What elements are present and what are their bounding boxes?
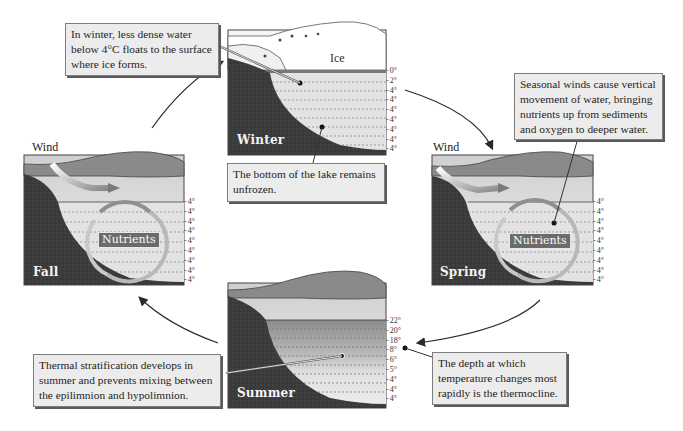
- temp-label: 4°: [386, 135, 397, 145]
- callout-summer-stratification: Thermal stratification develops in summe…: [33, 354, 221, 407]
- temp-label: 0°: [386, 66, 397, 76]
- spring-temperature-scale: 4° 4° 4° 4° 4° 4° 4° 4° 4°: [593, 197, 604, 285]
- callout-line: rapidly is the thermocline.: [438, 386, 561, 401]
- summer-temperature-scale: 22° 20° 18° 8° 6° 5° 4° 4° 4°: [386, 316, 401, 404]
- fall-temperature-scale: 4° 4° 4° 4° 4° 4° 4° 4° 4°: [184, 197, 195, 285]
- callout-line: Thermal stratification develops in: [39, 358, 215, 373]
- temp-label: 4°: [386, 375, 401, 385]
- temp-label: 18°: [386, 336, 401, 346]
- temp-label: 4°: [593, 246, 604, 256]
- callout-line: The bottom of the lake remains: [233, 167, 379, 182]
- temp-label: 4°: [184, 275, 195, 285]
- callout-line: unfrozen.: [233, 182, 379, 197]
- fall-wind-label: Wind: [32, 140, 58, 155]
- callout-line: where ice forms.: [71, 57, 213, 72]
- fall-nutrients-label: Nutrients: [98, 232, 160, 248]
- temp-label: 4°: [184, 207, 195, 217]
- temp-label: 4°: [593, 226, 604, 236]
- winter-temperature-scale: 0° 2° 4° 4° 4° 4° 4° 4° 4°: [386, 66, 397, 154]
- temp-label: 4°: [386, 105, 397, 115]
- temp-label: 4°: [184, 266, 195, 276]
- temp-label: 22°: [386, 316, 401, 326]
- temp-label: 4°: [593, 207, 604, 217]
- callout-line: nutrients up from sediments: [520, 107, 657, 122]
- temp-label: 4°: [184, 256, 195, 266]
- temp-label: 4°: [386, 385, 401, 395]
- temp-label: 4°: [184, 197, 195, 207]
- temp-label: 8°: [386, 345, 401, 355]
- temp-label: 4°: [386, 95, 397, 105]
- callout-line: summer and prevents mixing between: [39, 373, 215, 388]
- leader-thermocline: [405, 348, 432, 357]
- temp-label: 6°: [386, 355, 401, 365]
- temp-label: 4°: [593, 266, 604, 276]
- temp-label: 4°: [386, 86, 397, 96]
- callout-line: movement of water, bringing: [520, 92, 657, 107]
- temp-label: 4°: [386, 125, 397, 135]
- callout-line: temperature changes most: [438, 371, 561, 386]
- callout-thermocline: The depth at which temperature changes m…: [432, 352, 567, 405]
- temp-label: 2°: [386, 76, 397, 86]
- temp-label: 20°: [386, 326, 401, 336]
- temp-label: 4°: [386, 115, 397, 125]
- callout-line: In winter, less dense water: [71, 27, 213, 42]
- cycle-arrow-spring-to-summer: [418, 300, 540, 343]
- temp-label: 4°: [593, 275, 604, 285]
- temp-label: 4°: [386, 144, 397, 154]
- callout-winter-bottom: The bottom of the lake remains unfrozen.: [227, 163, 385, 202]
- callout-line: The depth at which: [438, 356, 561, 371]
- season-label-winter: Winter: [237, 133, 284, 147]
- callout-winter-surface: In winter, less dense water below 4°C fl…: [65, 23, 219, 76]
- spring-nutrients-label: Nutrients: [509, 233, 571, 249]
- callout-line: below 4°C floats to the surface: [71, 42, 213, 57]
- season-label-spring: Spring: [440, 265, 486, 279]
- cycle-arrow-summer-to-fall: [140, 298, 218, 343]
- temp-label: 4°: [593, 256, 604, 266]
- temp-label: 4°: [184, 246, 195, 256]
- callout-line: and oxygen to deeper water.: [520, 122, 657, 137]
- season-label-fall: Fall: [33, 265, 59, 279]
- season-label-summer: Summer: [237, 386, 295, 400]
- temp-label: 4°: [386, 394, 401, 404]
- temp-label: 4°: [184, 236, 195, 246]
- temp-label: 4°: [184, 217, 195, 227]
- ice-label: Ice: [330, 51, 345, 66]
- temp-label: 5°: [386, 365, 401, 375]
- temp-label: 4°: [593, 236, 604, 246]
- callout-spring-winds: Seasonal winds cause vertical movement o…: [514, 73, 663, 140]
- spring-wind-label: Wind: [433, 140, 459, 155]
- temp-label: 4°: [593, 217, 604, 227]
- callout-line: Seasonal winds cause vertical: [520, 77, 657, 92]
- temp-label: 4°: [593, 197, 604, 207]
- callout-line: the epilimnion and hypolimnion.: [39, 388, 215, 403]
- temp-label: 4°: [184, 226, 195, 236]
